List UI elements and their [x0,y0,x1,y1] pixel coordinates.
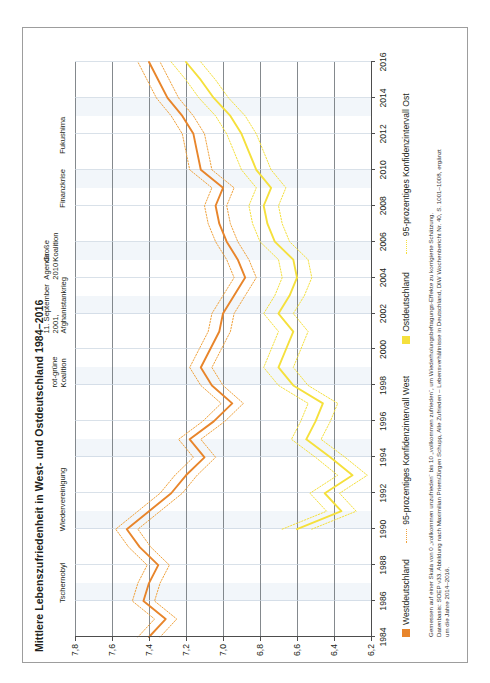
y-axis-label: 6,4 [329,644,339,664]
y-axis-label: 7,8 [70,644,80,664]
x-axis-tick [371,97,375,98]
y-axis-label: 7,0 [218,644,228,664]
figure-frame: Mittlere Lebenszufriedenheit in West- un… [22,27,468,663]
x-axis-label: 2016 [378,52,388,71]
page-title: Mittlere Lebenszufriedenheit in West- un… [33,300,45,652]
x-axis-tick [371,528,375,529]
legend-dotted-line-icon [406,529,407,543]
x-axis-tick [371,205,375,206]
legend-item-label: 95-prozentiges Konfidenzintervall Ost [401,93,411,236]
x-axis-label: 2004 [378,268,388,287]
legend-item-ostdeutschland: Ostdeutschland [401,272,411,344]
x-axis-label: 1992 [378,484,388,503]
x-axis-label: 2000 [378,340,388,359]
legend-item-label: 95-prozentiges Konfidenzintervall West [401,376,411,525]
x-axis-tick [371,169,375,170]
series-layer [75,62,371,637]
annotation-11-september: 11. September 2001, Afghanistankrieg [43,277,69,334]
y-axis-tick [260,637,261,641]
y-axis-tick [75,637,76,641]
legend-item-95-prozentiges-konfidenzintervall-west: 95-prozentiges Konfidenzintervall West [401,376,411,543]
chart-legend: Westdeutschland95-prozentiges Konfidenzi… [401,62,423,637]
annotation-finanzkrise: Finanzkrise [59,169,68,208]
x-axis-label: 2002 [378,304,388,323]
y-axis-tick [223,637,224,641]
legend-swatch-icon [402,629,410,637]
x-axis-tick [371,349,375,350]
y-axis-label: 7,6 [107,644,117,664]
x-axis-label: 1986 [378,592,388,611]
y-axis-tick [297,637,298,641]
legend-item-westdeutschland: Westdeutschland [401,559,411,637]
legend-item-95-prozentiges-konfidenzintervall-ost: 95-prozentiges Konfidenzintervall Ost [401,93,411,254]
x-axis-tick [371,420,375,421]
x-axis-tick [371,61,375,62]
chart-figure: Mittlere Lebenszufriedenheit in West- un… [23,28,469,664]
x-axis-label: 1984 [378,627,388,646]
x-axis-tick [371,600,375,601]
annotation-tschernobyl: Tschernobyl [59,563,68,604]
y-axis-tick [149,637,150,641]
rotated-canvas: Mittlere Lebenszufriedenheit in West- un… [23,28,469,664]
series-line-westdeutschland [127,62,245,637]
annotation-grosse-koalition: Große Koalition [43,233,60,262]
x-axis-label: 1998 [378,376,388,395]
x-axis-label: 2006 [378,232,388,251]
x-axis-line [371,62,372,637]
legend-item-label: Westdeutschland [401,559,411,625]
figure-page: Mittlere Lebenszufriedenheit in West- un… [0,0,490,683]
x-axis-tick [371,313,375,314]
x-axis-label: 2010 [378,160,388,179]
x-axis-tick [371,277,375,278]
y-axis-tick [112,637,113,641]
x-axis-label: 1988 [378,556,388,575]
x-axis-tick [371,133,375,134]
legend-dotted-line-icon [406,240,407,254]
y-axis-tick [371,637,372,641]
y-axis-tick [334,637,335,641]
y-axis-label: 6,8 [255,644,265,664]
y-axis-label: 7,2 [181,644,191,664]
y-axis-label: 7,4 [144,644,154,664]
annotation-fukushima: Fukushima [59,117,68,154]
x-axis-tick [371,456,375,457]
source-note: Gemessen auf einer Skala von 0 „vollkomm… [427,37,452,637]
x-axis-label: 2014 [378,88,388,107]
series-line-ostdeutschland [186,62,353,529]
x-axis-tick [371,564,375,565]
y-axis-label: 6,6 [292,644,302,664]
x-axis-label: 2008 [378,196,388,215]
y-axis-label: 6,2 [366,644,376,664]
ci-upper--prozentiges-konfidenzintervall-west [116,62,234,637]
legend-item-label: Ostdeutschland [401,272,411,332]
annotation-wiedervereinigung: Wiedervereinigung [59,468,68,531]
plot-inner [75,62,371,637]
x-axis-label: 2012 [378,124,388,143]
x-axis-label: 1996 [378,412,388,431]
plot-area [75,62,371,637]
ci-upper--prozentiges-konfidenzintervall-ost [171,62,338,529]
x-axis-tick [371,492,375,493]
legend-swatch-icon [402,336,410,344]
y-axis-tick [186,637,187,641]
x-axis-tick [371,384,375,385]
x-axis-label: 1990 [378,520,388,539]
x-axis-tick [371,241,375,242]
annotation-rot-gruene-koalition: rot-grüne Koalition [51,357,68,388]
x-axis-label: 1994 [378,448,388,467]
